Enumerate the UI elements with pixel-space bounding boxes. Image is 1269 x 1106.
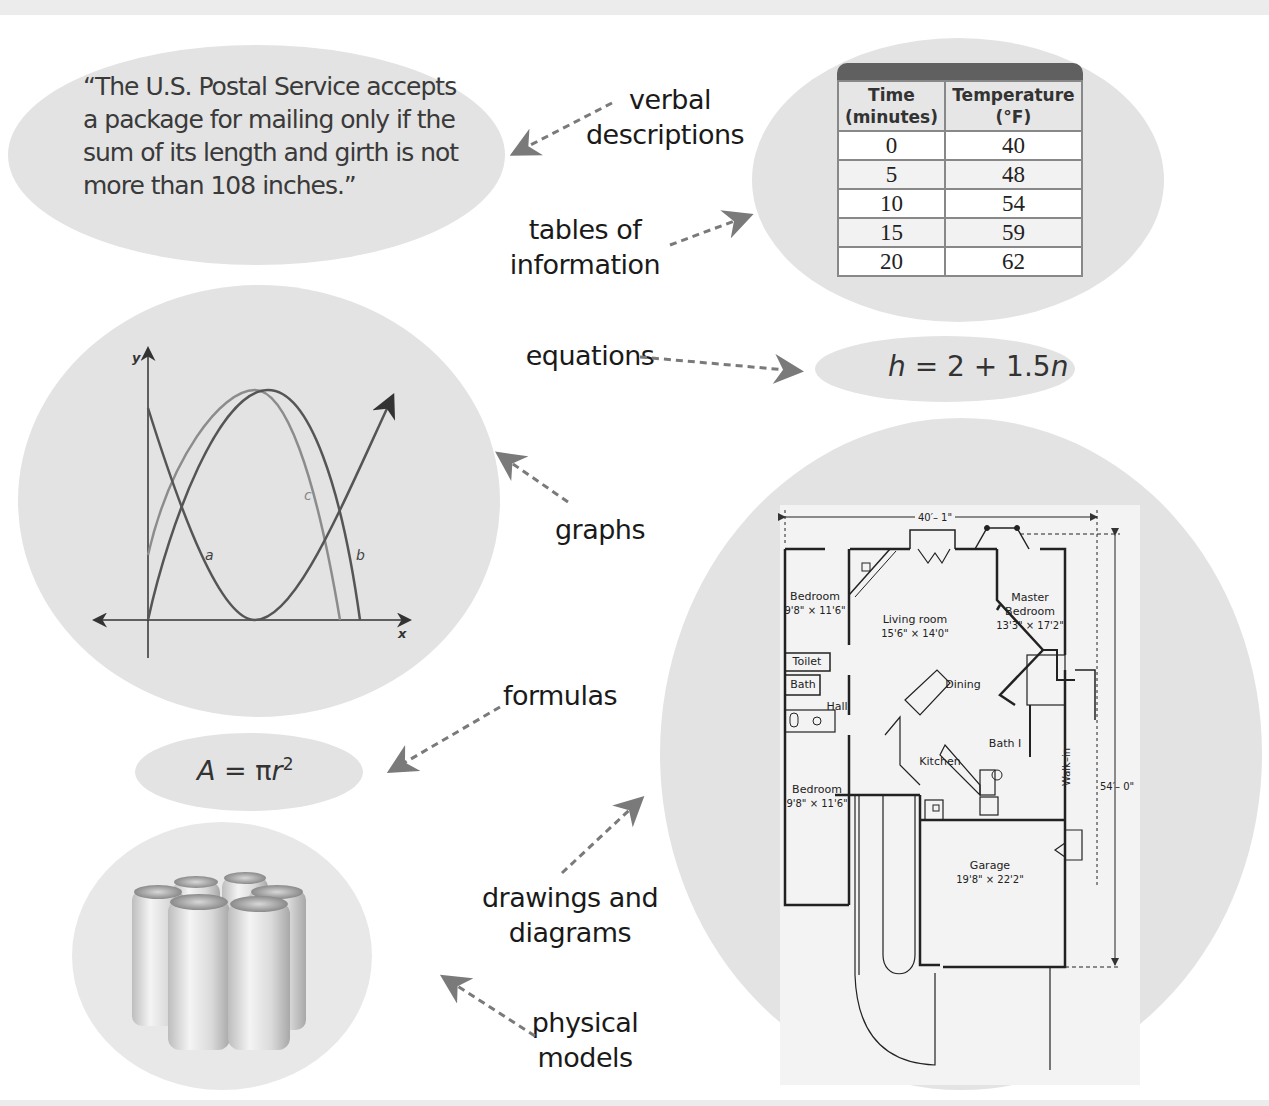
- cell-time: 0: [838, 131, 945, 160]
- y-axis-label: y: [132, 350, 141, 365]
- eq-middle: = 2 + 1.5: [906, 350, 1051, 383]
- formula-lhs: A: [197, 755, 215, 786]
- table-row: 040: [838, 131, 1082, 160]
- soda-cans-image: [72, 822, 372, 1090]
- fp-room-size: 15'6" × 14'0": [881, 628, 949, 639]
- table-row: 1054: [838, 189, 1082, 218]
- table-row: 548: [838, 160, 1082, 189]
- x-axis-label: x: [397, 626, 407, 641]
- arrow-physical: [445, 978, 535, 1036]
- arrow-formulas: [392, 707, 500, 770]
- cell-temp: 40: [945, 131, 1082, 160]
- fp-room-size: 13'3" × 17'2": [996, 620, 1064, 631]
- fp-room: Garage: [970, 859, 1011, 872]
- column-header-time: Time (minutes): [838, 81, 945, 131]
- curve-a: [148, 402, 390, 620]
- formula-middle: = π: [215, 755, 271, 786]
- eq-var: n: [1051, 350, 1069, 383]
- curve-b-label: b: [356, 547, 365, 563]
- fp-room: Bedroom: [790, 590, 840, 603]
- fp-room: Living room: [883, 613, 948, 626]
- arrow-equations: [640, 357, 798, 371]
- cell-temp: 54: [945, 189, 1082, 218]
- column-header-temperature: Temperature (°F): [945, 81, 1082, 131]
- header-line: (minutes): [843, 106, 940, 128]
- formula-exponent: 2: [283, 754, 294, 774]
- time-temperature-table: Time (minutes) Temperature (°F) 040 548 …: [837, 80, 1083, 277]
- formula-var: r: [272, 755, 283, 786]
- graph-figure: y x a b c: [80, 340, 420, 660]
- table-header-bar: [837, 63, 1083, 81]
- cell-temp: 48: [945, 160, 1082, 189]
- fp-room-size: 19'8" × 22'2": [956, 874, 1024, 885]
- header-line: (°F): [950, 106, 1077, 128]
- table-row: 2062: [838, 247, 1082, 276]
- fp-room-size: 9'8" × 11'6": [784, 605, 845, 616]
- cell-time: 10: [838, 189, 945, 218]
- cell-time: 15: [838, 218, 945, 247]
- cell-time: 5: [838, 160, 945, 189]
- curve-a-label: a: [205, 547, 214, 563]
- fp-room: Bath: [790, 678, 816, 691]
- fp-room: Toilet: [792, 655, 822, 668]
- can: [228, 896, 290, 1050]
- arrow-tables: [670, 216, 748, 245]
- curve-c: [148, 390, 340, 620]
- cell-temp: 62: [945, 247, 1082, 276]
- fp-room: Bath I: [989, 737, 1021, 750]
- fp-room: Bedroom: [1005, 605, 1055, 618]
- table-row: 1559: [838, 218, 1082, 247]
- fp-height-dim: 54′– 0": [1100, 781, 1134, 792]
- can: [168, 894, 230, 1050]
- cell-temp: 59: [945, 218, 1082, 247]
- header-line: Temperature: [950, 84, 1077, 106]
- fp-room: Dining: [945, 678, 981, 691]
- fp-room: Bedroom: [792, 783, 842, 796]
- arrow-verbal: [515, 103, 612, 153]
- fp-room: Hall: [826, 700, 847, 713]
- equation-text: h = 2 + 1.5n: [888, 350, 1068, 383]
- fp-room: Walk–in: [1061, 748, 1072, 786]
- arrow-graphs: [500, 455, 568, 502]
- fp-room: Kitchen: [919, 755, 960, 768]
- formula-text: A = πr2: [197, 754, 293, 786]
- arrow-drawings: [562, 800, 640, 873]
- fp-width-dim: 40′– 1": [918, 512, 952, 523]
- floor-plan-diagram: 40′– 1" 54′– 0" Bedroom 9'8" × 11'6" Liv…: [775, 505, 1155, 1105]
- cell-time: 20: [838, 247, 945, 276]
- fp-room-size: 9'8" × 11'6": [786, 798, 847, 809]
- curve-c-label: c: [304, 487, 312, 503]
- eq-lhs: h: [888, 350, 906, 383]
- fp-room: Master: [1011, 591, 1049, 604]
- header-line: Time: [843, 84, 940, 106]
